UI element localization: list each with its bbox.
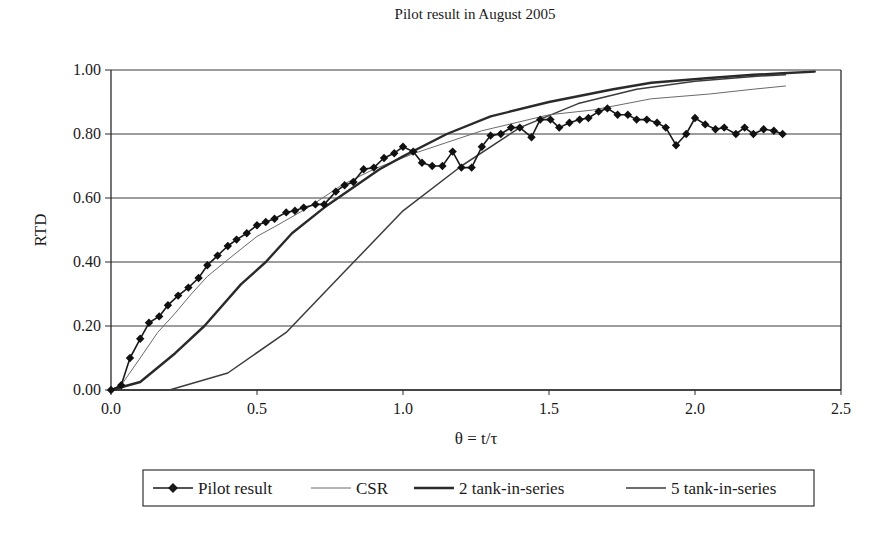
x-tick-label: 0.5 (247, 400, 267, 417)
legend-label: 5 tank-in-series (671, 479, 776, 498)
diamond-marker-icon (662, 123, 670, 131)
diamond-marker-icon (624, 111, 632, 119)
diamond-marker-icon (262, 218, 270, 226)
diamond-marker-icon (126, 354, 134, 362)
chart-canvas: Pilot result in August 2005 0.000.200.40… (0, 0, 883, 533)
diamond-marker-icon (643, 115, 651, 123)
rtd-chart: Pilot result in August 2005 0.000.200.40… (0, 0, 883, 533)
x-tick-label: 2.5 (831, 400, 851, 417)
series-pilot-result (107, 104, 787, 394)
diamond-marker-icon (497, 130, 505, 138)
legend-label: CSR (356, 479, 389, 498)
diamond-marker-icon (311, 200, 319, 208)
diamond-marker-icon (720, 123, 728, 131)
legend-label: 2 tank-in-series (459, 479, 564, 498)
series-line (111, 72, 815, 390)
diamond-marker-icon (603, 104, 611, 112)
series-line (111, 108, 783, 390)
y-tick-label: 0.40 (73, 253, 101, 270)
y-tick-label: 1.00 (73, 61, 101, 78)
series-line (111, 75, 786, 390)
y-axis-label: RTD (31, 214, 50, 247)
diamond-marker-icon (136, 335, 144, 343)
diamond-marker-icon (428, 162, 436, 170)
y-axis-ticks: 0.000.200.400.600.801.00 (73, 61, 111, 398)
diamond-marker-icon (575, 115, 583, 123)
diamond-marker-icon (107, 386, 115, 394)
legend: Pilot result CSR 2 tank-in-series 5 tank… (143, 470, 814, 506)
y-tick-label: 0.60 (73, 189, 101, 206)
x-axis-ticks: 0.00.51.01.52.02.5 (101, 390, 851, 417)
gridlines (111, 70, 841, 390)
diamond-marker-icon (711, 125, 719, 133)
diamond-marker-icon (300, 203, 308, 211)
diamond-marker-icon (701, 120, 709, 128)
diamond-marker-icon (467, 163, 475, 171)
y-tick-label: 0.20 (73, 317, 101, 334)
x-tick-label: 1.5 (539, 400, 559, 417)
series-2-tank-in-series (111, 72, 815, 390)
diamond-marker-icon (584, 114, 592, 122)
diamond-marker-icon (613, 111, 621, 119)
diamond-marker-icon (653, 119, 661, 127)
series-line (111, 86, 786, 390)
diamond-marker-icon (282, 208, 290, 216)
diamond-marker-icon (270, 215, 278, 223)
series-5-tank-in-series (111, 75, 786, 390)
diamond-marker-icon (778, 130, 786, 138)
y-tick-label: 0.00 (73, 381, 101, 398)
x-tick-label: 1.0 (393, 400, 413, 417)
x-tick-label: 0.0 (101, 400, 121, 417)
chart-title: Pilot result in August 2005 (395, 6, 556, 22)
plot-frame (111, 70, 841, 390)
diamond-marker-icon (565, 119, 573, 127)
x-tick-label: 2.0 (685, 400, 705, 417)
diamond-marker-icon (632, 115, 640, 123)
series-layer (107, 72, 815, 395)
series-csr (111, 86, 786, 390)
legend-label: Pilot result (198, 479, 272, 498)
diamond-marker-icon (759, 125, 767, 133)
y-tick-label: 0.80 (73, 125, 101, 142)
diamond-marker-icon (691, 114, 699, 122)
x-axis-label: θ = t/τ (455, 429, 498, 448)
